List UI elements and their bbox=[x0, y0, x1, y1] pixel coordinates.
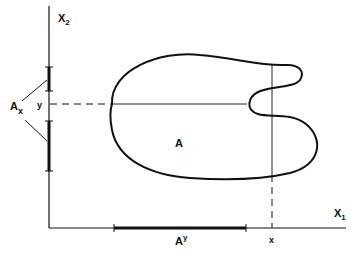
x-axis-label: X1 bbox=[334, 207, 346, 222]
set-a-label: A bbox=[175, 137, 183, 149]
ax-leader-lower bbox=[25, 120, 47, 141]
ax-leader-upper bbox=[22, 80, 47, 101]
ay-label: Ay bbox=[175, 233, 188, 247]
set-projection-diagram: X2 X1 Ax y Ay x A bbox=[0, 0, 351, 260]
x-point-label: x bbox=[269, 235, 274, 245]
set-a-boundary bbox=[111, 54, 318, 179]
ax-label: Ax bbox=[10, 100, 23, 116]
y-axis-label: X2 bbox=[58, 12, 70, 27]
y-point-label: y bbox=[37, 100, 42, 110]
